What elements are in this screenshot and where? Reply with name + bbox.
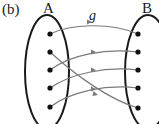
function-diagram: (b) A B g — [0, 0, 159, 124]
set-b-elements — [135, 31, 140, 110]
set-b-element — [135, 31, 140, 36]
set-b-element — [135, 67, 140, 72]
part-label: (b) — [2, 1, 20, 18]
set-b-element — [135, 105, 140, 110]
set-a-element — [47, 49, 52, 54]
set-b-element — [135, 49, 140, 54]
set-b-element — [135, 85, 140, 90]
function-label: g — [89, 8, 96, 23]
arrowheads — [87, 20, 98, 97]
set-a-oval — [25, 15, 69, 124]
set-a-label: A — [43, 0, 54, 16]
set-b-label: B — [142, 0, 152, 16]
set-a-element — [47, 31, 52, 36]
set-a-element — [47, 85, 52, 90]
set-a-elements — [47, 31, 52, 109]
arrowhead-icon — [93, 91, 99, 96]
arrowhead-icon — [91, 50, 96, 55]
set-a-element — [47, 67, 52, 72]
set-a-element — [47, 104, 52, 109]
